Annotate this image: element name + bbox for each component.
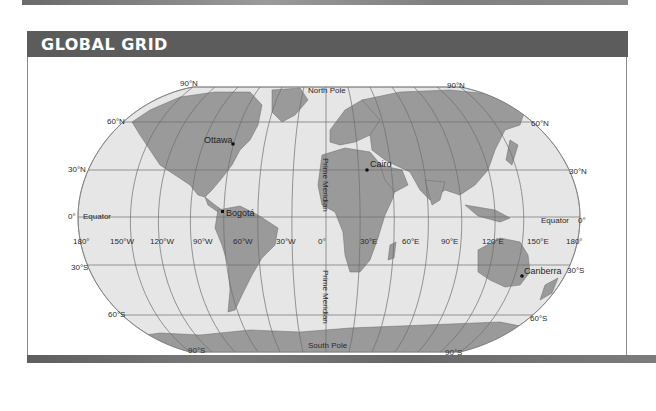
svg-text:0°: 0° <box>318 237 326 246</box>
svg-text:90°N: 90°N <box>447 81 465 90</box>
svg-text:60°N: 60°N <box>107 117 125 126</box>
north-pole-label: North Pole <box>308 86 346 95</box>
svg-text:Canberra: Canberra <box>524 266 562 276</box>
svg-text:60°E: 60°E <box>402 237 419 246</box>
svg-text:30°S: 30°S <box>71 263 88 272</box>
svg-text:90°N: 90°N <box>180 79 198 88</box>
svg-text:60°N: 60°N <box>531 119 549 128</box>
svg-text:30°N: 30°N <box>569 167 587 176</box>
svg-text:0°: 0° <box>578 216 586 225</box>
svg-text:60°S: 60°S <box>530 314 547 323</box>
capital-marker-icon <box>221 210 224 213</box>
svg-text:60°S: 60°S <box>108 310 125 319</box>
svg-text:90°S: 90°S <box>188 346 205 355</box>
svg-text:90°E: 90°E <box>441 237 458 246</box>
svg-text:150°W: 150°W <box>110 237 135 246</box>
svg-text:30°S: 30°S <box>567 266 584 275</box>
svg-text:Bogotá: Bogotá <box>226 208 255 218</box>
svg-text:30°W: 30°W <box>276 237 296 246</box>
world-map: 90°N 60°N 30°N 0° 30°S 60°S 90°S 90°N 60… <box>0 0 656 411</box>
city-ottawa: Ottawa <box>204 135 235 146</box>
svg-text:180°: 180° <box>73 237 90 246</box>
city-marker-icon <box>365 168 369 172</box>
svg-text:30°N: 30°N <box>68 165 86 174</box>
svg-text:150°E: 150°E <box>527 237 549 246</box>
equator-label-right: Equator <box>541 216 569 225</box>
svg-text:90°W: 90°W <box>193 237 213 246</box>
svg-text:Cairo: Cairo <box>370 159 392 169</box>
svg-text:120°E: 120°E <box>482 237 504 246</box>
svg-text:30°E: 30°E <box>360 237 377 246</box>
svg-text:Ottawa: Ottawa <box>204 135 233 145</box>
bottom-rule <box>27 355 656 363</box>
prime-meridian-label-upper: Prime Meridian <box>321 158 330 212</box>
svg-text:0°: 0° <box>68 212 76 221</box>
prime-meridian-label-lower: Prime Meridian <box>321 270 330 324</box>
svg-text:180°: 180° <box>566 237 583 246</box>
svg-text:120°W: 120°W <box>150 237 175 246</box>
south-pole-label: South Pole <box>308 341 348 350</box>
city-bogota: Bogotá <box>221 208 255 218</box>
svg-text:60°W: 60°W <box>233 237 253 246</box>
equator-label-left: Equator <box>83 212 111 221</box>
